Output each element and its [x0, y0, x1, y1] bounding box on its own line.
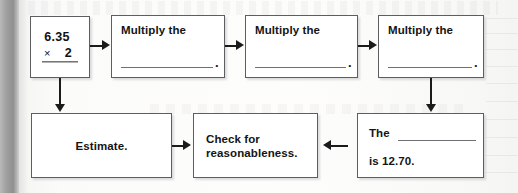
check-reasonableness-label: Check for reasonableness.	[206, 131, 298, 159]
page-texture-line	[486, 155, 518, 156]
book-spine-shadow	[0, 0, 19, 193]
arrow-estimate-to-check-head	[183, 140, 191, 150]
multiply-step-1-box: Multiply the .	[111, 15, 225, 78]
page-texture-line	[486, 119, 518, 120]
page-texture-line	[486, 101, 518, 102]
multiply-step-2-period: .	[348, 56, 352, 69]
multiply-step-3-blank[interactable]	[388, 67, 472, 68]
product-blank[interactable]	[398, 140, 476, 141]
multiply-step-3-box: Multiply the .	[378, 15, 484, 78]
multiply-step-1-label: Multiply the	[121, 23, 186, 37]
multiply-step-2-label: Multiply the	[255, 23, 320, 37]
page-texture-line	[486, 83, 518, 84]
multiply-step-3-label: Multiply the	[388, 23, 453, 37]
multiply-step-3-period: .	[474, 56, 478, 69]
page-texture-line	[486, 172, 518, 173]
arrow-problem-to-estimate-line	[59, 78, 61, 106]
page-texture-line	[486, 66, 518, 67]
arrow-step3-to-product-line	[430, 78, 432, 106]
arrow-product-to-check-head	[323, 140, 331, 150]
product-statement-box: The is 12.70.	[357, 113, 484, 178]
arrow-problem-to-estimate-head	[55, 104, 65, 112]
multiplier: 2	[65, 46, 72, 60]
multiplicand: 6.35	[31, 30, 89, 44]
math-problem-box: 6.35 ×2	[30, 16, 90, 78]
multiply-step-2-blank[interactable]	[255, 67, 346, 68]
check-reasonableness-box: Check for reasonableness.	[193, 113, 318, 178]
arrow-step1-to-step2-head	[236, 40, 244, 50]
arrow-product-to-check-line	[331, 145, 348, 147]
multiply-step-1-period: .	[215, 56, 219, 69]
page-texture-line	[486, 18, 518, 19]
product-label-line-1: The	[369, 126, 390, 140]
estimate-box: Estimate.	[31, 113, 172, 178]
multiplication-operator-icon: ×	[44, 47, 51, 59]
arrow-step2-to-step3-head	[369, 40, 377, 50]
arrow-problem-to-step1-head	[102, 40, 110, 50]
bleed-through-text	[28, 1, 498, 15]
estimate-label: Estimate.	[32, 138, 171, 152]
multiply-step-1-blank[interactable]	[121, 67, 213, 68]
page-texture-line	[486, 33, 518, 34]
math-problem: 6.35 ×2	[31, 30, 89, 62]
page-texture-line	[486, 137, 518, 138]
arrow-step3-to-product-head	[426, 104, 436, 112]
book-spine-edge	[19, 0, 28, 193]
worksheet-page: 6.35 ×2 Multiply the . Multiply the . Mu…	[0, 0, 518, 193]
product-label-line-2: is 12.70.	[369, 154, 415, 168]
page-texture-line	[486, 49, 518, 50]
multiply-step-2-box: Multiply the .	[245, 15, 358, 78]
multiplier-row: ×2	[42, 45, 78, 62]
